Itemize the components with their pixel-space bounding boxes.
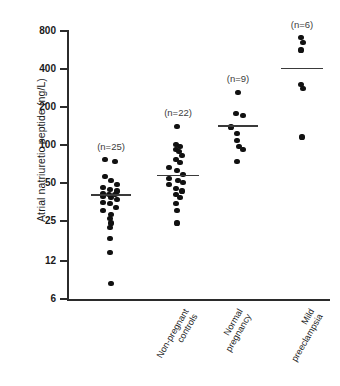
- y-tick-label: 200: [16, 102, 56, 112]
- x-axis-group-label: Non-pregnantcontrols: [155, 307, 200, 365]
- data-point: [173, 157, 178, 162]
- data-point: [108, 281, 113, 286]
- data-point: [236, 144, 241, 149]
- data-point: [300, 86, 305, 91]
- y-tick-label: 400: [16, 64, 56, 74]
- data-point: [114, 188, 119, 193]
- data-point: [176, 149, 181, 154]
- data-point: [107, 225, 112, 230]
- data-point: [174, 168, 179, 173]
- y-tick-mark: [60, 220, 68, 222]
- data-point: [107, 187, 112, 192]
- y-tick-label: 6: [16, 294, 56, 304]
- y-tick-mark: [60, 182, 68, 184]
- data-point: [180, 180, 185, 185]
- data-point: [173, 201, 178, 206]
- y-tick-mark: [60, 30, 68, 32]
- group-count-label: (n=9): [227, 73, 249, 84]
- data-point: [240, 113, 245, 118]
- data-point: [112, 159, 117, 164]
- data-point: [112, 192, 117, 197]
- data-point: [107, 236, 112, 241]
- median-line: [218, 125, 258, 127]
- data-point: [114, 182, 119, 187]
- data-point: [234, 138, 239, 143]
- data-point: [173, 192, 178, 197]
- data-point: [100, 208, 105, 213]
- group-count-label: (n=22): [164, 107, 192, 118]
- data-point: [166, 182, 171, 187]
- y-tick-mark: [60, 106, 68, 108]
- data-point: [173, 147, 178, 152]
- x-axis-group-label: Normalpregnancy: [215, 307, 253, 353]
- group-count-label: (n=25): [97, 141, 125, 152]
- data-point: [174, 124, 179, 129]
- data-point: [175, 178, 180, 183]
- y-tick-mark: [60, 298, 68, 300]
- scatter-chart-figure: Atrial natriuretic peptide (ng/L) 612255…: [0, 0, 340, 386]
- data-point: [298, 47, 303, 52]
- data-point: [108, 220, 113, 225]
- data-point: [298, 35, 303, 40]
- data-point: [177, 144, 182, 149]
- data-point: [100, 200, 105, 205]
- data-point: [179, 153, 184, 158]
- y-tick-label: 800: [16, 26, 56, 36]
- data-point: [234, 159, 239, 164]
- data-point: [166, 176, 171, 181]
- y-tick-label: 50: [16, 178, 56, 188]
- data-point: [102, 157, 107, 162]
- data-point: [298, 82, 303, 87]
- group-count-label: (n=6): [291, 19, 313, 30]
- data-point: [180, 172, 185, 177]
- y-tick-label: 25: [16, 216, 56, 226]
- data-point: [228, 124, 233, 129]
- data-point: [240, 147, 245, 152]
- data-point: [173, 142, 178, 147]
- data-point: [107, 216, 112, 221]
- data-point: [100, 185, 105, 190]
- data-point: [106, 192, 111, 197]
- data-point: [174, 208, 179, 213]
- data-point: [113, 205, 118, 210]
- data-point: [300, 40, 305, 45]
- median-line: [157, 175, 199, 177]
- data-point: [235, 90, 240, 95]
- data-point: [177, 195, 182, 200]
- data-point: [107, 250, 112, 255]
- data-point: [114, 197, 119, 202]
- median-line: [91, 194, 131, 196]
- data-point: [233, 111, 238, 116]
- y-tick-label: 100: [16, 140, 56, 150]
- data-point: [234, 131, 239, 136]
- y-tick-label: 12: [16, 256, 56, 266]
- data-point: [177, 160, 182, 165]
- data-point: [100, 194, 105, 199]
- median-line: [281, 68, 323, 70]
- data-point: [173, 186, 178, 191]
- data-point: [107, 201, 112, 206]
- y-tick-mark: [60, 68, 68, 70]
- data-point: [299, 134, 304, 139]
- data-point: [179, 188, 184, 193]
- data-point: [102, 174, 107, 179]
- data-point: [108, 178, 113, 183]
- data-point: [108, 212, 113, 217]
- x-axis-line: [67, 299, 330, 301]
- y-tick-mark: [60, 260, 68, 262]
- y-tick-mark: [60, 144, 68, 146]
- x-axis-group-label: Mildpreeclampsia: [281, 307, 325, 363]
- data-point: [174, 220, 179, 225]
- data-point: [166, 165, 171, 170]
- data-point: [108, 195, 113, 200]
- data-point: [100, 191, 105, 196]
